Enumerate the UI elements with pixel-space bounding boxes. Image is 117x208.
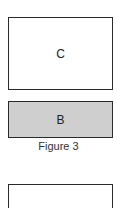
box-c-label: C (56, 47, 65, 61)
box-b-label: B (56, 113, 64, 127)
box-unlabeled (8, 184, 113, 208)
figure-caption: Figure 3 (0, 140, 117, 152)
box-c: C (8, 17, 113, 90)
box-b: B (8, 101, 113, 138)
